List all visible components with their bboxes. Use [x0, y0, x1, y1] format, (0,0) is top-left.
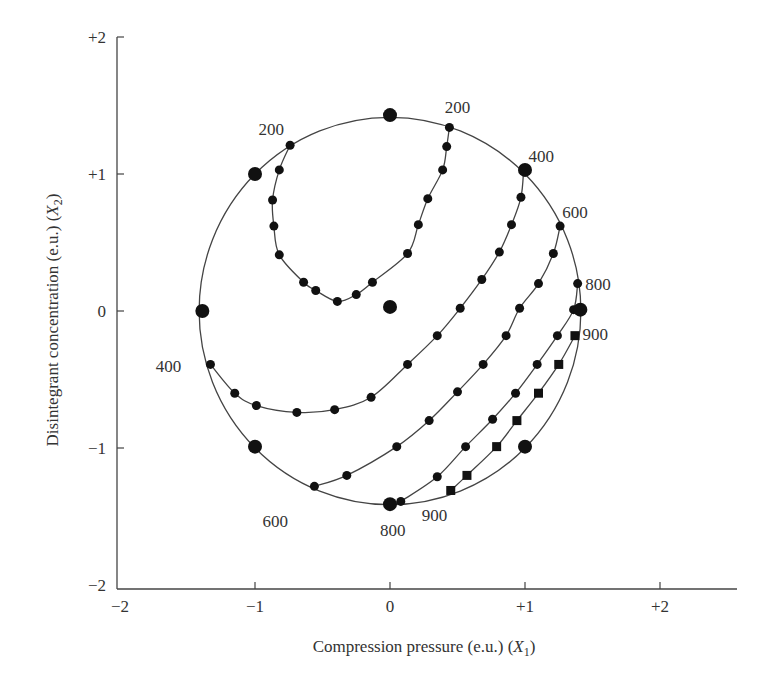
circle-marker: [433, 331, 442, 340]
y-axis-title: Disintegrant concentration (e.u.) (X2): [43, 194, 65, 447]
circle-marker: [403, 360, 412, 369]
design-point-marker: [383, 300, 397, 314]
circle-marker: [438, 165, 447, 174]
circle-marker: [367, 393, 376, 402]
circle-marker: [269, 222, 278, 231]
square-marker: [446, 486, 455, 495]
contour-label: 800: [380, 521, 406, 540]
design-point-marker: [248, 440, 262, 454]
circle-marker: [516, 193, 525, 202]
square-marker: [554, 360, 563, 369]
circle-marker: [502, 331, 511, 340]
square-marker: [512, 416, 521, 425]
design-point-marker: [248, 167, 262, 181]
circle-marker: [423, 194, 432, 203]
circle-marker: [275, 250, 284, 259]
contour-label: 800: [585, 275, 611, 294]
design-point-marker: [383, 497, 397, 511]
circle-marker: [479, 360, 488, 369]
circle-marker: [342, 471, 351, 480]
circle-marker: [268, 196, 277, 205]
design-point-marker: [518, 440, 532, 454]
circle-marker: [445, 123, 454, 132]
square-marker: [492, 442, 501, 451]
circle-marker: [286, 141, 295, 150]
y-tick-label: −2: [88, 576, 106, 595]
circle-marker: [453, 387, 462, 396]
circle-marker: [533, 360, 542, 369]
circle-marker: [573, 279, 582, 288]
contour-line: [451, 336, 575, 491]
y-tick-label: 0: [98, 302, 107, 321]
circle-marker: [511, 389, 520, 398]
circle-marker: [352, 290, 361, 299]
square-marker: [570, 331, 579, 340]
design-point-marker: [518, 163, 532, 177]
x-tick-label: −2: [111, 597, 129, 616]
circle-marker: [396, 497, 405, 506]
y-tick-label: +1: [88, 165, 106, 184]
x-axis-ticks: −2−10+1+2: [111, 582, 669, 616]
design-point-marker: [383, 108, 397, 122]
x-tick-label: 0: [386, 597, 395, 616]
circle-marker: [425, 416, 434, 425]
contour-label: 200: [258, 120, 284, 139]
circle-marker: [515, 304, 524, 313]
contour-label: 200: [445, 98, 471, 117]
y-axis-ticks: +2+10−1−2: [88, 28, 124, 595]
circle-marker: [330, 405, 339, 414]
contour-line: [401, 284, 578, 502]
circle-marker: [275, 165, 284, 174]
circle-marker: [392, 442, 401, 451]
circle-marker: [507, 220, 516, 229]
x-tick-label: −1: [246, 597, 264, 616]
circle-marker: [311, 286, 320, 295]
circle-marker: [403, 249, 412, 258]
y-tick-label: −1: [88, 439, 106, 458]
circle-marker: [534, 279, 543, 288]
plot-area: 200200400400600600800800900900: [156, 98, 611, 540]
design-point-marker: [573, 303, 587, 317]
x-tick-label: +2: [651, 597, 669, 616]
contour-label: 400: [156, 357, 182, 376]
circle-marker: [299, 278, 308, 287]
circle-marker: [414, 220, 423, 229]
circle-marker: [206, 360, 215, 369]
circle-marker: [230, 389, 239, 398]
y-tick-label: +2: [88, 28, 106, 47]
circle-marker: [549, 249, 558, 258]
contour-200: 200200: [258, 98, 470, 306]
circle-marker: [461, 442, 470, 451]
circle-marker: [368, 278, 377, 287]
contour-label: 400: [528, 147, 554, 166]
circle-marker: [433, 472, 442, 481]
contour-label: 900: [422, 506, 448, 525]
circle-marker: [252, 401, 261, 410]
contour-line: [272, 127, 449, 301]
circle-marker: [495, 248, 504, 257]
circle-marker: [456, 304, 465, 313]
circle-marker: [553, 331, 562, 340]
axes: −2−10+1+2 +2+10−1−2: [88, 28, 737, 616]
design-point-marker: [195, 304, 209, 318]
contour-label: 600: [263, 512, 289, 531]
x-axis-title: Compression pressure (e.u.) (X1): [313, 637, 536, 659]
circle-marker: [442, 142, 451, 151]
contour-label: 600: [562, 203, 588, 222]
circle-marker: [310, 482, 319, 491]
circle-marker: [488, 415, 497, 424]
x-tick-label: +1: [516, 597, 534, 616]
contour-line: [210, 170, 523, 413]
contour-400: 400400: [156, 147, 554, 417]
circle-marker: [477, 275, 486, 284]
circle-marker: [333, 297, 342, 306]
response-surface-contour-chart: −2−10+1+2 +2+10−1−2 Compression pressure…: [0, 0, 776, 688]
square-marker: [534, 389, 543, 398]
circle-marker: [292, 408, 301, 417]
circle-marker: [556, 222, 565, 231]
contour-label: 900: [582, 325, 608, 344]
square-marker: [462, 471, 471, 480]
